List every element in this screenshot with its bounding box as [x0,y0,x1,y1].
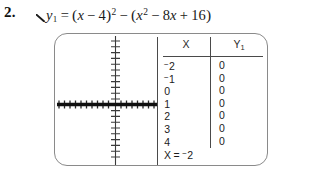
table-cell-y1: 0 [219,109,225,122]
equation-lhs-variable: y [46,7,53,23]
table-row: −1 0 [157,72,267,85]
table-cell-x-value: 2 [164,110,170,122]
equation: y1=(x−4)2−(x2−8x+16) [46,6,211,24]
problem-number: 2. [4,4,16,21]
table-cell-y1: 0 [219,97,225,110]
table-cell-x-value: 1 [169,72,175,84]
table-cell-x-value: 0 [164,85,170,97]
table-header-row: X Y1 [157,37,267,56]
equation-term2-plus: + [180,7,188,23]
status-equals: = [174,149,180,161]
table-header-y1: Y1 [219,38,259,52]
table-row: 4 0 [157,135,267,148]
table-header-x: X [169,38,203,50]
negative-sign: − [164,60,169,69]
table-cell-x-value: 2 [169,60,175,72]
graph-svg [55,34,157,165]
equation-term1-close-paren: ) [106,6,111,23]
table-cell-x: 1 [164,97,170,110]
status-value: 2 [187,149,193,161]
table-row: −2 0 [157,59,267,72]
y-axis [111,36,120,165]
table-cell-x: 0 [164,84,170,97]
table-cell-x: 3 [164,122,170,135]
table-cell-x: −2 [164,59,175,72]
table-cell-x: −1 [164,72,175,85]
table-cell-x-value: 1 [164,97,170,109]
equation-term2-minus: − [151,7,159,23]
table-cell-y1: 0 [219,122,225,135]
equation-term2-coefficient: 8 [163,7,170,23]
equation-equals: = [61,7,69,23]
equation-term2-constant: 16 [191,7,206,23]
graph-region [55,34,157,165]
equation-term1-constant: 4 [99,7,106,23]
status-variable: X [164,149,171,161]
table-cell-y1: 0 [219,59,225,72]
equation-middle-minus: − [120,7,128,23]
equation-term2-variable: x [136,7,143,23]
table-row: 0 0 [157,84,267,97]
table-cell-y1: 0 [219,72,225,85]
pointer-tick-icon [36,14,45,22]
table-cell-y1: 0 [219,135,225,148]
equation-term2-variable2: x [170,7,177,23]
table-header-y1-sub: 1 [240,43,244,52]
value-table: X Y1 −2 0 −1 0 0 0 1 0 2 0 [157,34,267,165]
table-cell-x-value: 3 [164,123,170,135]
table-body: −2 0 −1 0 0 0 1 0 2 0 3 0 [157,59,267,147]
equation-term2-close-paren: ) [206,6,211,23]
table-header-rule [163,56,263,57]
equation-term1-exponent: 2 [112,7,117,17]
table-row: 2 0 [157,109,267,122]
table-cell-y1: 0 [219,84,225,97]
table-row: 1 0 [157,97,267,110]
calculator-screen-panel: X Y1 −2 0 −1 0 0 0 1 0 2 0 [54,33,268,166]
table-status-line: X=−2 [164,149,193,161]
table-cell-x: 2 [164,109,170,122]
table-cell-x-value: 4 [164,135,170,147]
equation-term2-exponent: 2 [143,7,148,17]
equation-lhs-subscript: 1 [53,14,58,24]
equation-term1-minus: − [87,7,95,23]
table-cell-x: 4 [164,135,170,148]
equation-term1-variable: x [77,7,84,23]
negative-sign: − [164,73,169,82]
table-row: 3 0 [157,122,267,135]
